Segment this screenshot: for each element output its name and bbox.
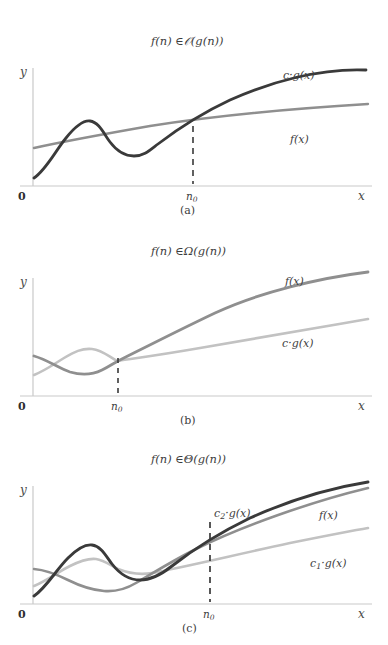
- panel-a: f(n) ∈𝒪(g(n)) y x 0 n0 c·g(x) f(x) (a): [0, 0, 388, 220]
- curve-label-c-g-of-x-a: c·g(x): [283, 70, 315, 81]
- curve-c-g-of-x-b: [34, 319, 368, 375]
- panel-a-plot: [0, 0, 388, 220]
- origin-label-a: 0: [18, 191, 26, 202]
- x-axis-label-c: x: [358, 608, 365, 620]
- curve-label-c-g-of-x-b: c·g(x): [282, 338, 314, 349]
- panel-b-title-notation: Ω: [184, 244, 194, 258]
- panel-a-title-notation: 𝒪: [184, 34, 191, 48]
- x-axis-label-a: x: [358, 190, 365, 202]
- panel-c-title-prefix: f(n): [151, 452, 175, 466]
- curve-label-f-of-x-b: f(x): [285, 276, 304, 287]
- panel-c: f(n) ∈Θ(g(n)) y x 0 n0 c2·g(x) f(x) c1·g…: [0, 430, 388, 645]
- curve-c2-g-of-x-c: [34, 482, 368, 596]
- panel-c-title-in: ∈: [175, 452, 184, 466]
- y-axis-label-c: y: [20, 484, 27, 496]
- y-axis-label-a: y: [20, 66, 27, 78]
- threshold-label-a: n0: [186, 191, 198, 204]
- curve-f-of-x-a: [34, 104, 368, 148]
- curve-c1-g-of-x-c: [34, 528, 368, 586]
- panel-c-title-suffix: (g(n)): [193, 452, 226, 466]
- panel-b: f(n) ∈Ω(g(n)) y x 0 n0 f(x) c·g(x) (b): [0, 220, 388, 430]
- threshold-label-c: n0: [203, 609, 215, 622]
- curve-label-c1-g-of-x-c: c1·g(x): [310, 558, 347, 571]
- curve-c-g-of-x-a: [34, 70, 366, 178]
- panel-a-title: f(n) ∈𝒪(g(n)): [151, 36, 224, 48]
- panel-b-title-in: ∈: [175, 244, 184, 258]
- curve-label-f-of-x-a: f(x): [290, 134, 309, 145]
- panel-b-caption: (b): [180, 415, 196, 426]
- y-axis-label-b: y: [20, 276, 27, 288]
- panel-c-caption: (c): [182, 623, 197, 634]
- threshold-label-b: n0: [111, 401, 123, 414]
- threshold-label-b-text: n: [111, 400, 118, 412]
- threshold-label-a-text: n: [186, 190, 193, 202]
- curve-label-c-c2-g: g(x): [229, 507, 251, 520]
- threshold-label-a-sub: 0: [193, 195, 198, 204]
- asymptotic-notation-figure: f(n) ∈𝒪(g(n)) y x 0 n0 c·g(x) f(x) (a) f…: [0, 0, 388, 645]
- curve-label-f-of-x-c: f(x): [319, 510, 338, 521]
- panel-b-title-prefix: f(n): [151, 244, 175, 258]
- panel-b-title-suffix: (g(n)): [193, 244, 226, 258]
- curve-label-a-g: g(x): [293, 69, 315, 82]
- panel-b-title: f(n) ∈Ω(g(n)): [151, 246, 226, 258]
- curve-f-of-x-c: [34, 488, 368, 591]
- origin-label-c: 0: [18, 609, 26, 620]
- panel-a-title-in: ∈: [175, 34, 184, 48]
- threshold-label-b-sub: 0: [118, 405, 123, 414]
- x-axis-label-b: x: [358, 400, 365, 412]
- panel-c-title: f(n) ∈Θ(g(n)): [151, 454, 226, 466]
- curve-label-b-g: g(x): [292, 337, 314, 350]
- curve-label-c2-g-of-x-c: c2·g(x): [214, 508, 251, 521]
- panel-a-caption: (a): [180, 205, 195, 216]
- threshold-label-c-sub: 0: [210, 613, 215, 622]
- panel-a-title-suffix: (g(n)): [191, 34, 224, 48]
- panel-c-title-notation: Θ: [184, 452, 193, 466]
- origin-label-b: 0: [18, 401, 26, 412]
- panel-a-title-prefix: f(n): [151, 34, 175, 48]
- curve-f-of-x-b: [34, 272, 368, 374]
- curve-label-c-c1-g: g(x): [325, 557, 347, 570]
- threshold-label-c-text: n: [203, 608, 210, 620]
